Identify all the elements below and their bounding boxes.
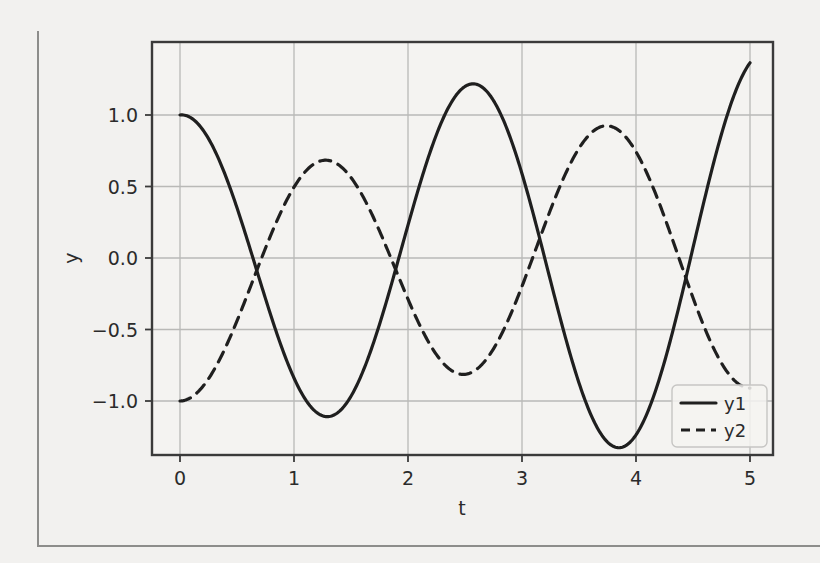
x-tick-label-2: 2	[402, 467, 414, 489]
y-tick-labels: 1.0 0.5 0.0 −0.5 −1.0	[92, 104, 138, 412]
x-tick-label-0: 0	[174, 467, 186, 489]
x-axis-title: t	[458, 497, 465, 519]
legend-box	[672, 385, 767, 447]
legend[interactable]: y1 y2	[672, 385, 767, 447]
x-tick-label-5: 5	[744, 467, 756, 489]
x-tick-label-3: 3	[516, 467, 528, 489]
x-tick-label-1: 1	[288, 467, 300, 489]
x-tick-labels: 0 1 2 3 4 5	[174, 467, 756, 489]
y-axis-title: y	[60, 252, 82, 263]
legend-label-y2: y2	[724, 420, 746, 441]
y-tick-label--1.0: −1.0	[92, 390, 138, 412]
y-tick-label--0.5: −0.5	[92, 319, 138, 341]
legend-label-y1: y1	[724, 393, 746, 414]
x-tick-label-4: 4	[630, 467, 642, 489]
y-tick-label-0.0: 0.0	[108, 247, 138, 269]
y-tick-label-0.5: 0.5	[108, 176, 138, 198]
y-tick-label-1.0: 1.0	[108, 104, 138, 126]
